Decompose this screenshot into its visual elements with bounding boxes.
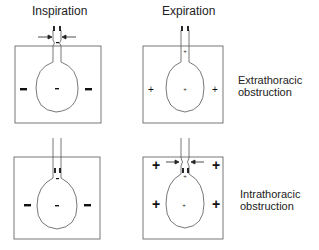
lung-trachea-outline xyxy=(166,30,204,112)
lung-trachea-outline xyxy=(37,138,77,229)
lung-trachea-outline xyxy=(166,138,204,228)
svg-text:+: + xyxy=(183,86,187,92)
airway-obstruction-diagram: ++ ++ + + + + ++ xyxy=(0,0,319,250)
svg-text:+: + xyxy=(183,48,187,54)
svg-text:+: + xyxy=(182,202,186,208)
svg-text:+: + xyxy=(152,157,160,173)
compression-arrows xyxy=(38,35,204,164)
svg-text:+: + xyxy=(212,84,218,95)
svg-text:+: + xyxy=(148,84,154,95)
svg-text:+: + xyxy=(152,196,160,212)
svg-text:+: + xyxy=(212,196,220,212)
svg-text:+: + xyxy=(183,173,187,179)
svg-text:+: + xyxy=(212,157,220,173)
thorax-box xyxy=(14,157,100,239)
